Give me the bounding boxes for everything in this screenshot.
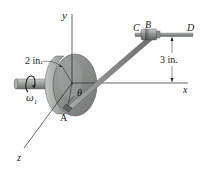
point-d-label: D	[187, 23, 194, 33]
omega-subscript: 1	[34, 98, 38, 106]
x-axis-label: x	[183, 85, 187, 95]
radius-dimension-label: 2 in.	[25, 56, 43, 66]
y-axis-label: y	[62, 10, 67, 21]
point-a-label: A	[60, 113, 67, 123]
height-dimension-label: 3 in.	[160, 55, 178, 65]
mechanism-diagram	[0, 0, 208, 172]
omega-label: ω1	[26, 92, 37, 106]
omega-symbol: ω	[26, 91, 34, 103]
theta-label: θ	[77, 88, 82, 98]
point-c-label: C	[133, 23, 140, 33]
point-b-label: B	[145, 20, 151, 30]
z-axis-label: z	[17, 153, 21, 163]
collar-b	[141, 29, 160, 40]
